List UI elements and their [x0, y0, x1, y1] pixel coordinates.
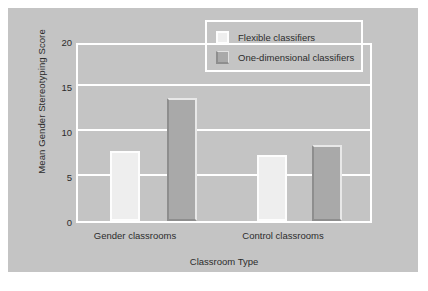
light-square-swatch-icon — [216, 31, 229, 44]
dark-square-swatch-icon — [216, 51, 229, 64]
legend-label-onedimensional: One-dimensional classifiers — [238, 52, 354, 63]
y-tick-20: 20 — [32, 37, 72, 48]
y-tick-10: 10 — [32, 127, 72, 138]
bar-onedimensional-gender — [167, 98, 197, 221]
y-axis-tick-labels: 20 15 10 5 0 — [28, 43, 72, 223]
legend-entry-onedimensional: One-dimensional classifiers — [216, 47, 354, 67]
bar-flexible-gender — [110, 151, 140, 221]
gridline-15 — [78, 84, 370, 86]
gridline-10 — [78, 129, 370, 131]
y-tick-5: 5 — [32, 172, 72, 183]
legend-entry-flexible: Flexible classifiers — [216, 27, 315, 47]
x-axis-title: Classroom Type — [76, 256, 372, 267]
chart-legend: Flexible classifiers One-dimensional cla… — [205, 20, 363, 72]
chart-figure: Mean Gender Stereotyping Score 20 15 10 … — [8, 8, 418, 272]
bar-onedimensional-control — [312, 145, 342, 221]
y-tick-15: 15 — [32, 82, 72, 93]
y-tick-0: 0 — [32, 217, 72, 228]
x-tick-gender-classrooms: Gender classrooms — [60, 230, 210, 241]
bar-flexible-control — [257, 155, 287, 221]
legend-label-flexible: Flexible classifiers — [238, 32, 315, 43]
x-tick-control-classrooms: Control classrooms — [208, 230, 358, 241]
